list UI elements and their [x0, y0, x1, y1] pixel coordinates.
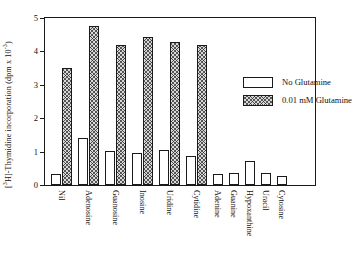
- y-axis-tick-label: 1: [34, 147, 38, 157]
- bar: [277, 176, 287, 185]
- y-axis-tick-mark: [40, 185, 45, 186]
- bar: [143, 37, 153, 185]
- x-axis-label-slot: Adenosine: [77, 188, 98, 252]
- legend-swatch: [243, 77, 273, 88]
- x-axis-tick-labels: NilAdenosineGuanosineInosineUridineCytid…: [44, 188, 316, 252]
- bar: [261, 173, 271, 185]
- bar: [51, 174, 61, 185]
- y-axis-tick-label: 4: [34, 46, 38, 56]
- plot-area: 012345 No Glutamine0.01 mM Glutamine: [44, 17, 316, 186]
- x-axis-label-slot: Nil: [50, 188, 71, 252]
- legend-item: No Glutamine: [243, 76, 355, 88]
- x-axis-tick-label: Guanine: [229, 190, 238, 218]
- y-axis-tick-label: 5: [34, 13, 38, 23]
- x-axis-label-slot: Cytosine: [276, 188, 286, 252]
- x-axis-tick-label: Adenine: [213, 190, 222, 218]
- x-axis-label-slot: Guanosine: [104, 188, 125, 252]
- bar-group: [186, 18, 207, 185]
- y-axis-title-part-2: H]-Thymidine incorporation (dpm x 10: [4, 49, 13, 182]
- x-axis-label-slot: Guanine: [228, 188, 238, 252]
- y-axis-title: [3H]-Thymidine incorporation (dpm x 10-3…: [0, 41, 14, 188]
- bar-group: [213, 18, 223, 185]
- x-axis-tick-label: Cytosine: [277, 190, 286, 219]
- y-axis-tick-label: 2: [34, 113, 38, 123]
- bar: [116, 45, 126, 185]
- bar: [186, 156, 196, 185]
- x-axis-label-slot: Uridine: [158, 188, 179, 252]
- y-axis-tick-label: 0: [34, 180, 38, 190]
- x-axis-tick-label: Inosine: [137, 190, 146, 214]
- bar-group: [229, 18, 239, 185]
- bar-group: [105, 18, 126, 185]
- x-axis-tick-label: Hypoxanthine: [245, 190, 254, 236]
- x-axis-tick-label: Adenosine: [83, 190, 92, 225]
- bar: [170, 42, 180, 185]
- y-axis-title-superscript-1: 3: [2, 182, 8, 185]
- bar: [229, 173, 239, 185]
- x-axis-label-slot: Cytidine: [185, 188, 206, 252]
- x-axis-label-slot: Adenine: [212, 188, 222, 252]
- x-axis-label-slot: Hypoxanthine: [244, 188, 254, 252]
- bar: [197, 45, 207, 185]
- x-axis-tick-label: Uracil: [261, 190, 270, 210]
- x-axis-tick-label: Uridine: [164, 190, 173, 215]
- y-axis-title-superscript-2: -3: [2, 44, 8, 49]
- x-axis-label-slot: Inosine: [131, 188, 152, 252]
- x-axis-label-slot: Uracil: [260, 188, 270, 252]
- bar: [159, 150, 169, 185]
- legend-item: 0.01 mM Glutamine: [243, 94, 355, 106]
- chart-legend: No Glutamine0.01 mM Glutamine: [243, 76, 355, 112]
- bar: [132, 153, 142, 185]
- legend-label: No Glutamine: [282, 77, 331, 87]
- bar: [213, 174, 223, 185]
- bar: [62, 68, 72, 185]
- x-axis-tick-label: Cytidine: [191, 190, 200, 218]
- legend-swatch: [243, 95, 273, 106]
- y-axis-title-part-3: ): [4, 41, 13, 44]
- bar-group: [78, 18, 99, 185]
- bar: [105, 151, 115, 185]
- bar: [89, 26, 99, 185]
- bar-group: [159, 18, 180, 185]
- y-axis-title-container: [3H]-Thymidine incorporation (dpm x 10-3…: [0, 0, 22, 195]
- x-axis-tick-label: Nil: [56, 190, 65, 200]
- legend-label: 0.01 mM Glutamine: [282, 95, 352, 105]
- y-axis-tick-label: 3: [34, 80, 38, 90]
- bar-group: [51, 18, 72, 185]
- bar: [245, 161, 255, 185]
- bar: [78, 138, 88, 185]
- x-axis-tick-label: Guanosine: [110, 190, 119, 225]
- y-axis-title-part-1: [: [4, 185, 13, 188]
- bar-group: [132, 18, 153, 185]
